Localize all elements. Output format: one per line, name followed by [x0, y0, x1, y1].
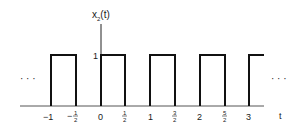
svg-text:1: 1 — [123, 110, 127, 116]
square-wave-signal — [51, 55, 264, 106]
ellipsis-right: · · · — [271, 73, 287, 84]
svg-text:2: 2 — [173, 117, 177, 123]
svg-text:1: 1 — [74, 110, 78, 116]
x-tick-half: 1 2 — [122, 110, 127, 123]
svg-text:5: 5 — [223, 110, 227, 116]
x-tick-three-halves: 3 2 — [172, 110, 177, 123]
x-tick-neg1: −1 — [43, 112, 53, 122]
svg-text:−: − — [67, 111, 72, 121]
pulse — [51, 55, 76, 106]
ellipsis-left: · · · — [20, 73, 36, 84]
x-axis-label: t — [279, 111, 282, 121]
x-tick-neg-half: − 1 2 — [67, 110, 78, 123]
svg-text:2: 2 — [74, 117, 78, 123]
svg-text:2: 2 — [223, 117, 227, 123]
pulse — [249, 55, 264, 106]
x-tick-1: 1 — [148, 112, 153, 122]
y-tick-1: 1 — [93, 51, 98, 61]
pulse — [150, 55, 175, 106]
x-tick-0: 0 — [98, 112, 103, 122]
svg-text:3: 3 — [173, 110, 177, 116]
square-wave-chart: x2(t) 1 · · · · · · −1 − 1 2 0 1 2 1 3 2… — [0, 0, 297, 125]
x-tick-five-halves: 5 2 — [222, 110, 227, 123]
svg-text:2: 2 — [123, 117, 127, 123]
pulse — [101, 55, 125, 106]
x-tick-3: 3 — [246, 112, 251, 122]
pulse — [200, 55, 225, 106]
x-tick-2: 2 — [197, 112, 202, 122]
y-axis-label: x2(t) — [92, 9, 110, 22]
